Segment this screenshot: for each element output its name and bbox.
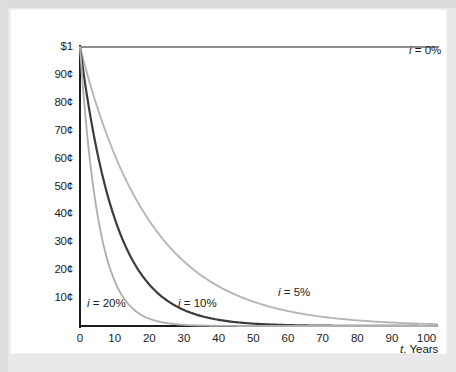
x-tick-label: 10 xyxy=(100,332,130,344)
curve-label-rest: = 10% xyxy=(181,297,217,309)
y-tick-label: 10¢ xyxy=(27,291,73,303)
y-tick-label: 60¢ xyxy=(27,152,73,164)
y-tick-label: 50¢ xyxy=(27,180,73,192)
curve-label-rest: = 20% xyxy=(90,297,126,309)
curve-label-rest: = 0% xyxy=(412,44,442,56)
x-axis-title-suffix: , Years xyxy=(403,343,438,355)
x-tick-label: 0 xyxy=(65,332,95,344)
curve-label-0pct: i = 0% xyxy=(409,44,441,56)
curve-label-20pct: i = 20% xyxy=(87,297,126,309)
x-tick-label: 80 xyxy=(342,332,372,344)
x-axis-title: t, Years xyxy=(400,343,438,355)
x-tick-label: 40 xyxy=(204,332,234,344)
y-tick-label: 80¢ xyxy=(27,96,73,108)
x-tick-label: 70 xyxy=(308,332,338,344)
y-tick-label: 40¢ xyxy=(27,207,73,219)
y-tick-label: 30¢ xyxy=(27,235,73,247)
x-tick-label: 30 xyxy=(169,332,199,344)
curve-5pct xyxy=(80,47,437,324)
x-tick-label: 50 xyxy=(238,332,268,344)
y-tick-label: 20¢ xyxy=(27,263,73,275)
x-tick-label: 20 xyxy=(134,332,164,344)
x-tick-label: 60 xyxy=(273,332,303,344)
curve-label-5pct: i = 5% xyxy=(278,286,310,298)
curve-label-rest: = 5% xyxy=(281,286,311,298)
y-tick-label: 70¢ xyxy=(27,124,73,136)
y-tick-label: 90¢ xyxy=(27,68,73,80)
curve-20pct xyxy=(80,47,437,326)
page-text-bleed xyxy=(96,361,366,372)
curve-label-10pct: i = 10% xyxy=(178,297,217,309)
figure-card: 10¢20¢30¢40¢50¢60¢70¢80¢90¢$1 0102030405… xyxy=(10,9,447,354)
y-tick-label: $1 xyxy=(27,40,73,52)
curve-paths xyxy=(80,47,437,326)
curve-10pct xyxy=(80,47,437,326)
